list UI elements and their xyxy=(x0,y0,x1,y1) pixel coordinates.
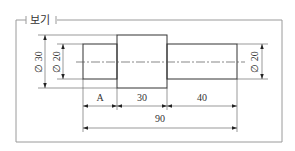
diameter-dimension-20-right: ∅ 20 xyxy=(249,44,262,79)
diameter-dimension-30: ∅ 30 xyxy=(33,35,45,88)
example-frame: 보기 xyxy=(16,14,282,142)
extension-lines xyxy=(38,35,268,132)
dim-left-outer: ∅ 30 xyxy=(33,51,44,73)
frame-label: 보기 xyxy=(30,14,50,27)
diameter-dimension-20-left: ∅ 20 xyxy=(51,44,63,79)
dim-30: 30 xyxy=(137,92,147,103)
middle-section xyxy=(117,35,167,88)
dim-a: A xyxy=(96,92,104,103)
right-section xyxy=(167,44,237,79)
length-dimensions-row: A 30 40 xyxy=(83,92,237,106)
overall-length-dimension: 90 xyxy=(83,113,237,128)
dim-40: 40 xyxy=(197,92,207,103)
shaft xyxy=(76,35,245,88)
dim-90: 90 xyxy=(155,113,165,124)
technical-drawing: 보기 ∅ 30 ∅ 20 ∅ 20 A 30 4 xyxy=(0,0,295,151)
dim-right: ∅ 20 xyxy=(249,51,260,73)
left-section xyxy=(83,44,117,79)
dim-left-inner: ∅ 20 xyxy=(51,51,62,73)
